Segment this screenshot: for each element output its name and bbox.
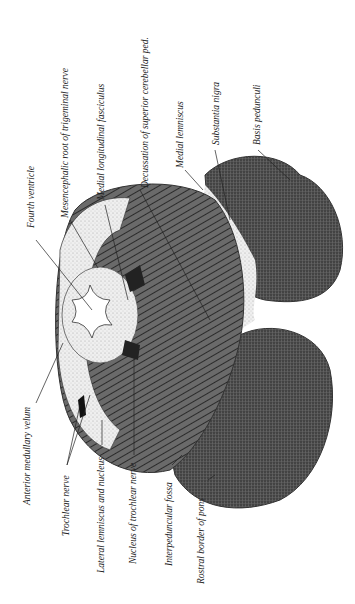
label-trochlear-nerve: Trochlear nerve [61, 475, 71, 536]
label-substantia-nigra: Substantia nigra [211, 82, 221, 145]
label-anterior-medullary-velum: Anterior medullary velum [22, 407, 32, 505]
label-interpeduncular-fossa: Interpeduncular fossa [164, 482, 174, 566]
label-mesencephalic-root: Mesencephalic root of trigeminal nerve [60, 68, 70, 218]
label-basis-pedunculi: Basis pedunculi [252, 85, 262, 145]
label-medial-longitudinal-fasciculus: Medial longitudinal fasciculus [96, 84, 106, 200]
label-rostral-border-of-pons: Rostral border of pons [196, 498, 206, 584]
label-decussation-superior-cerebellar-peduncle: Decussation of superior cerebellar ped. [140, 37, 150, 188]
label-lateral-lemniscus-and-nucleus: Lateral lemniscus and nucleus [96, 457, 106, 573]
brainstem-section-figure: Fourth ventricle Mesencephalic root of t… [0, 0, 355, 604]
label-nucleus-of-trochlear-nerve: Nucleus of trochlear nerve [128, 463, 138, 564]
label-medial-lemniscus: Medial lemniscus [175, 101, 185, 168]
label-fourth-ventricle: Fourth ventricle [26, 166, 36, 228]
section-illustration [0, 0, 355, 604]
